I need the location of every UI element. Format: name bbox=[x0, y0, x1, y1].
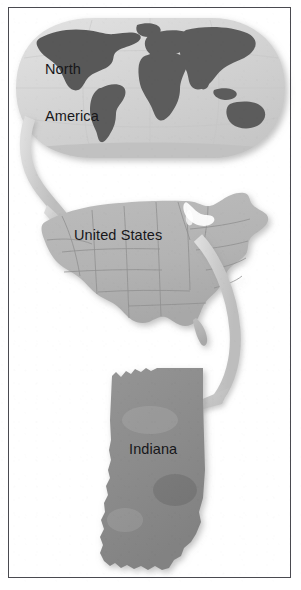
label-indiana: Indiana bbox=[129, 442, 177, 458]
geographic-nesting-figure: North America United States Indiana bbox=[0, 0, 301, 590]
label-north-america-line1: North bbox=[45, 62, 99, 78]
label-north-america: North America bbox=[45, 31, 99, 156]
us-florida bbox=[193, 318, 207, 346]
label-united-states: United States bbox=[74, 228, 162, 244]
indiana-outline bbox=[100, 368, 205, 570]
label-north-america-line2: America bbox=[45, 109, 99, 125]
indiana-map bbox=[100, 368, 205, 570]
